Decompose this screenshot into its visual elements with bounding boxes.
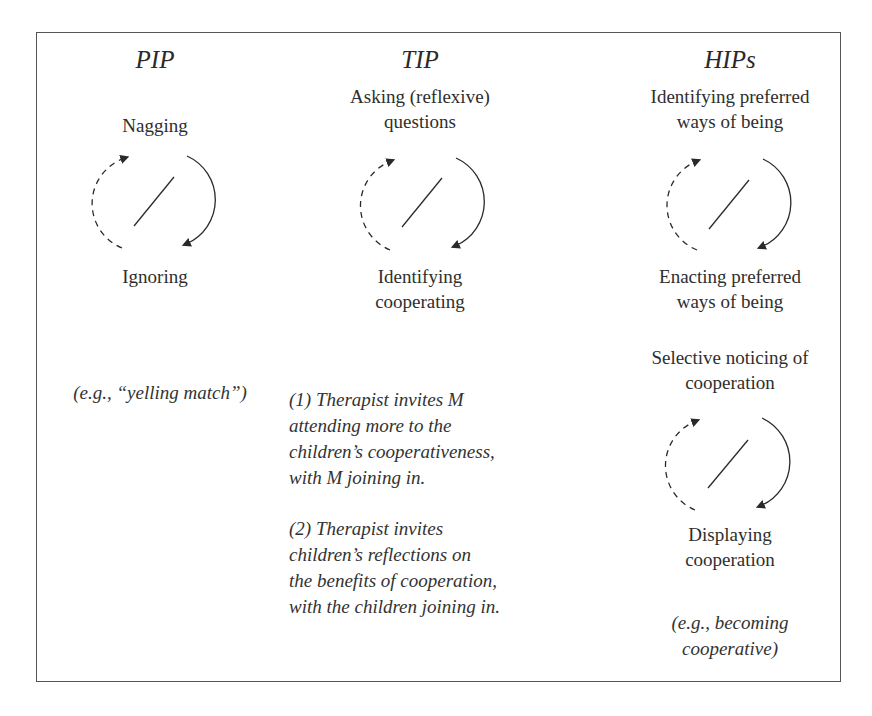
cycle-bottom-label: Displaying cooperation [615, 522, 845, 572]
hips-cycle-icon [675, 153, 785, 258]
hips-cycle-icon [674, 413, 784, 518]
column-title-hips: HIPs [680, 46, 780, 74]
pip-cycle-icon [100, 150, 210, 255]
therapist-step-2: (2) Therapist invites children’s reflect… [289, 516, 500, 620]
cycle-bottom-label: Identifying cooperating [300, 264, 540, 314]
cycle-top-label: Selective noticing of cooperation [615, 345, 845, 395]
example-note: (e.g., becoming cooperative) [615, 610, 845, 662]
cycle-top-label: Identifying preferred ways of being [615, 84, 845, 134]
cycle-bottom-label: Ignoring [55, 264, 255, 289]
column-title-tip: TIP [370, 46, 470, 74]
cycle-bottom-label: Enacting preferred ways of being [615, 264, 845, 314]
tip-cycle-icon [368, 153, 478, 258]
therapist-step-1: (1) Therapist invites M attending more t… [289, 387, 495, 491]
cycle-top-label: Asking (reflexive) questions [300, 84, 540, 134]
example-note: (e.g., “yelling match”) [40, 380, 280, 406]
